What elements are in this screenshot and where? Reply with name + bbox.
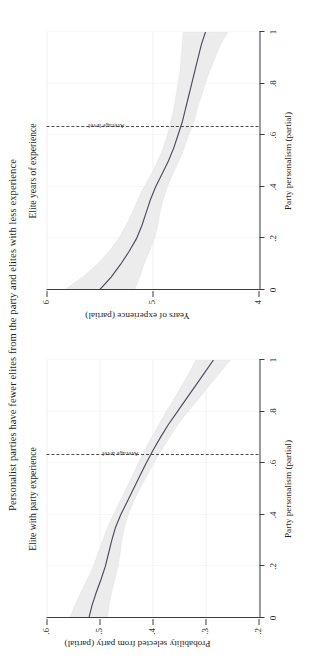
series-plot [46, 32, 258, 290]
x-axis-tick [259, 237, 264, 238]
y-axis-tick [152, 291, 153, 297]
x-axis-tick [259, 186, 264, 187]
figure-canvas: Personalist parties have fewer elites fr… [0, 0, 333, 670]
y-axis-line [46, 289, 260, 290]
x-axis-line [259, 31, 260, 290]
y-axis-tick [258, 619, 259, 625]
rotated-figure-wrapper: Personalist parties have fewer elites fr… [0, 0, 333, 670]
y-axis-tick [258, 291, 259, 297]
y-axis-tick [46, 619, 47, 625]
y-axis-tick [205, 619, 206, 625]
x-axis-tick [259, 359, 264, 360]
x-axis-tick [259, 514, 264, 515]
panel-elite-party-experience: Elite with party experience Average leve… [26, 340, 326, 658]
x-axis-tick-label: .6 [267, 132, 277, 139]
average-level-line [46, 126, 258, 127]
x-axis-tick-label: .4 [267, 511, 277, 518]
y-axis-title: Probability selected from party (partial… [31, 639, 243, 649]
x-axis-tick [259, 31, 264, 32]
y-axis-tick [99, 619, 100, 625]
x-axis-tick-label: 0 [267, 288, 277, 293]
x-axis-tick [259, 462, 264, 463]
x-axis-title-left: Party personalism (partial) [282, 360, 292, 618]
figure-suptitle: Personalist parties have fewer elites fr… [6, 0, 17, 670]
x-axis-tick-label: .2 [267, 563, 277, 570]
x-axis-tick [259, 411, 264, 412]
x-axis-tick-label: .4 [267, 183, 277, 190]
average-level-label: Average level [88, 123, 124, 130]
y-axis-tick-label: 4 [252, 300, 262, 322]
y-axis-tick [46, 291, 47, 297]
x-axis-title-right: Party personalism (partial) [282, 32, 292, 290]
x-axis-tick-label: .2 [267, 235, 277, 242]
x-axis-tick-label: .8 [267, 408, 277, 415]
x-axis-tick [259, 617, 264, 618]
plot-area-left: Average level [46, 360, 258, 618]
confidence-interval-band [69, 360, 230, 618]
x-axis-tick [259, 289, 264, 290]
series-plot [46, 360, 258, 618]
x-axis-tick-label: 1 [267, 30, 277, 35]
x-axis-tick [259, 134, 264, 135]
x-axis-line [259, 359, 260, 618]
panel-elite-years-experience: Elite years of experience Average level … [26, 12, 326, 330]
y-axis-tick [152, 619, 153, 625]
x-axis-tick-label: 0 [267, 616, 277, 621]
x-axis-tick-label: .8 [267, 80, 277, 87]
y-axis-title: Years of experience (partial) [31, 311, 243, 321]
panel-title-left: Elite with party experience [26, 340, 37, 658]
average-level-line [46, 454, 258, 455]
x-axis-tick-label: 1 [267, 358, 277, 363]
x-axis-tick [259, 565, 264, 566]
x-axis-tick-label: .6 [267, 460, 277, 467]
average-level-label: Average level [102, 451, 138, 458]
plot-area-right: Average level [46, 32, 258, 290]
confidence-interval-band [64, 32, 227, 290]
panel-title-right: Elite years of experience [26, 12, 37, 330]
y-axis-line [46, 617, 260, 618]
x-axis-tick [259, 83, 264, 84]
y-axis-tick-label: .2 [252, 628, 262, 650]
